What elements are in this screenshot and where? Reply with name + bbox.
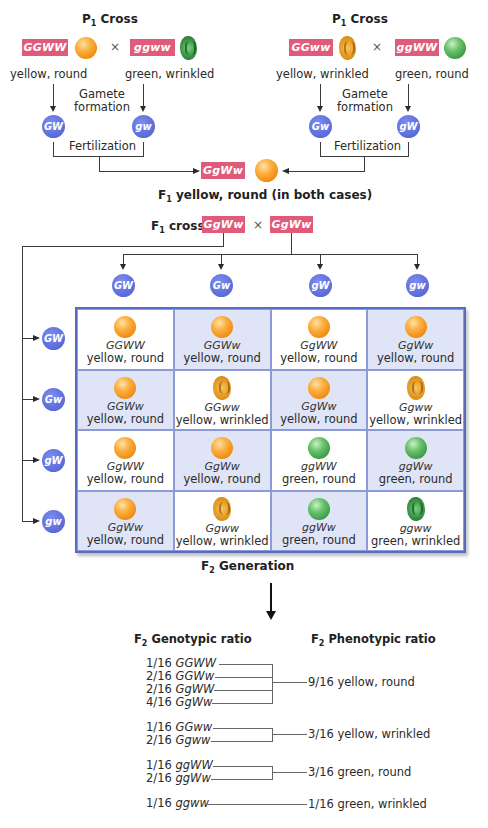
bracket-line	[215, 677, 272, 678]
gamete-gW: gW	[397, 115, 420, 138]
phenotypic-ratio-heading: F2 Phenotypic ratio	[311, 632, 436, 648]
bracket-line	[320, 142, 321, 156]
cell-phenotype: yellow, round	[272, 413, 367, 426]
row-gamete-gW: gW	[42, 449, 65, 472]
green-wrinkled-pea-icon	[180, 36, 197, 60]
cell-phenotype: yellow, round	[175, 352, 270, 365]
yellow-round-pea-icon	[211, 437, 233, 459]
fertilization-label: Fertilization	[69, 139, 136, 153]
yellow-round-pea-icon	[308, 377, 330, 399]
gamete-formation-label: Gamete formation	[337, 88, 393, 114]
bracket-line	[289, 171, 365, 172]
column-gamete-gw: gw	[406, 274, 429, 297]
left-parent2-genotype-box: ggww	[130, 39, 175, 56]
yellow-round-pea-icon	[211, 316, 233, 338]
bracket-line	[211, 741, 272, 742]
arrow-down-icon	[317, 106, 323, 112]
punnett-cell: Ggww yellow, wrinkled	[174, 491, 271, 552]
column-gamete-GW: GW	[112, 274, 135, 297]
punnett-cell: ggWw green, round	[367, 430, 464, 491]
cell-phenotype: yellow, round	[368, 352, 463, 365]
connector-line	[53, 84, 54, 108]
title-letter: F	[201, 559, 209, 573]
cell-genotype: ggww	[368, 522, 463, 535]
genotype-text: GgWw	[272, 218, 312, 231]
genotype: ggww	[175, 796, 208, 810]
phenotype-ratio: 9/16 yellow, round	[308, 675, 415, 689]
connector-line	[320, 84, 321, 108]
cell-phenotype: green, wrinkled	[368, 535, 463, 548]
genotype-ratio-row: 1/16 ggWW	[146, 758, 213, 772]
arrow-down-icon	[405, 106, 411, 112]
cell-phenotype: yellow, round	[78, 534, 173, 547]
genotype-text: ggWW	[397, 41, 438, 54]
fraction: 2/16	[146, 771, 172, 785]
title-letter: F	[134, 632, 142, 646]
cell-phenotype: yellow, round	[78, 352, 173, 365]
genotype: GGWw	[175, 669, 214, 683]
cell-phenotype: green, round	[368, 473, 463, 486]
f1-genotype-box: GgWw	[201, 162, 245, 179]
genotype: GgWW	[175, 682, 214, 696]
cross-symbol: ×	[372, 40, 382, 54]
green-round-pea-icon	[444, 37, 466, 59]
cell-genotype: GGww	[175, 401, 270, 414]
genotype: GGww	[175, 720, 212, 734]
fraction: 1/16	[146, 656, 172, 670]
f1-cross-label: F1 cross	[151, 219, 205, 235]
cross-symbol: ×	[110, 40, 120, 54]
f1-cross-parent1-box: GgWw	[202, 216, 245, 233]
cell-genotype: Ggww	[368, 401, 463, 414]
label-line: formation	[74, 101, 130, 114]
cell-phenotype: yellow, round	[78, 473, 173, 486]
arrow-down-icon	[317, 264, 323, 270]
genotype-text: GgWw	[203, 164, 243, 177]
cell-phenotype: green, round	[272, 473, 367, 486]
genotypic-ratio-heading: F2 Genotypic ratio	[134, 632, 252, 648]
cell-genotype: GgWw	[272, 400, 367, 413]
genotype-text: GGWW	[23, 41, 66, 54]
right-parent2-genotype-box: ggWW	[395, 39, 439, 56]
f1-title: F1 yellow, round (in both cases)	[158, 188, 372, 204]
gamete-formation-label: Gamete formation	[74, 88, 130, 114]
genotype-ratio-row: 2/16 Ggww	[146, 733, 211, 747]
arrow-down-icon	[414, 264, 420, 270]
fraction: 2/16	[146, 682, 172, 696]
connector-line	[270, 583, 272, 613]
bracket-line	[213, 766, 272, 767]
arrow-right-icon	[193, 168, 200, 174]
genotype-ratio-row: 1/16 ggww	[146, 796, 209, 810]
genotype-text: ggww	[134, 41, 171, 54]
row-gamete-gw: gw	[42, 510, 65, 533]
fraction: 1/16	[146, 758, 172, 772]
yellow-round-pea-icon	[114, 377, 136, 399]
punnett-cell: GGWW yellow, round	[77, 309, 174, 370]
connector-line	[408, 84, 409, 108]
punnett-square: GGWW yellow, round GGWw yellow, round Gg…	[75, 307, 466, 553]
bracket-line	[99, 171, 194, 172]
yellow-round-pea-icon	[308, 316, 330, 338]
connector-line	[22, 246, 224, 247]
cell-genotype: Ggww	[175, 522, 270, 535]
cell-phenotype: yellow, wrinkled	[368, 414, 463, 427]
cell-genotype: ggWw	[272, 521, 367, 534]
row-gamete-Gw: Gw	[42, 388, 65, 411]
column-gamete-Gw: Gw	[210, 274, 233, 297]
title-suffix: yellow, round (in both cases)	[172, 188, 372, 202]
yellow-round-pea-icon	[75, 37, 97, 59]
bracket-line	[211, 779, 272, 780]
fraction: 2/16	[146, 669, 172, 683]
arrow-down-icon	[50, 106, 56, 112]
genotype: Ggww	[175, 733, 210, 747]
punnett-cell: GgWw yellow, round	[77, 491, 174, 552]
yellow-wrinkled-pea-icon	[339, 36, 356, 60]
bracket-line	[272, 682, 307, 683]
title-suffix: Cross	[96, 12, 137, 26]
cross-symbol: ×	[253, 218, 263, 232]
yellow-wrinkled-pea-icon	[213, 497, 231, 521]
green-round-pea-icon	[405, 437, 427, 459]
bracket-line	[272, 766, 273, 780]
cell-phenotype: yellow, round	[78, 413, 173, 426]
connector-line	[143, 84, 144, 108]
bracket-line	[53, 142, 54, 156]
